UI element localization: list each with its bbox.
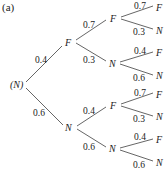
node-l2-nf: F	[110, 101, 116, 111]
leaf-ffn: N	[156, 26, 163, 36]
prob-leaf-ffn: 0.3	[133, 27, 145, 37]
prob-leaf-fnf: 0.4	[134, 46, 146, 56]
root-node: (N)	[10, 80, 23, 90]
leaf-nnf: F	[156, 135, 162, 145]
leaf-fnf: F	[156, 48, 162, 58]
prob-leaf-nff: 0.7	[134, 88, 146, 98]
node-l2-ff: F	[110, 14, 116, 24]
figure-label: (a)	[2, 2, 14, 12]
prob-leaf-nnf: 0.4	[134, 132, 146, 142]
prob-l2-fn: 0.3	[83, 55, 95, 65]
prob-l2-nn: 0.6	[83, 142, 95, 152]
prob-l1-n: 0.6	[33, 108, 45, 118]
prob-l2-ff: 0.7	[83, 20, 95, 30]
leaf-nnn: N	[156, 158, 163, 168]
leaf-nfn: N	[156, 112, 163, 122]
prob-leaf-fff: 0.7	[134, 1, 146, 11]
node-l1-n: N	[65, 123, 72, 133]
prob-l2-nf: 0.4	[83, 106, 95, 116]
node-l2-nn: N	[109, 144, 116, 154]
leaf-nff: F	[156, 90, 162, 100]
leaf-fff: F	[156, 3, 162, 13]
leaf-fnn: N	[156, 71, 163, 81]
node-l1-f: F	[65, 38, 71, 48]
node-l2-fn: N	[109, 59, 116, 69]
prob-leaf-fnn: 0.6	[133, 73, 145, 83]
prob-leaf-nfn: 0.3	[133, 114, 145, 124]
prob-l1-f: 0.4	[35, 55, 47, 65]
prob-leaf-nnn: 0.6	[133, 160, 145, 170]
